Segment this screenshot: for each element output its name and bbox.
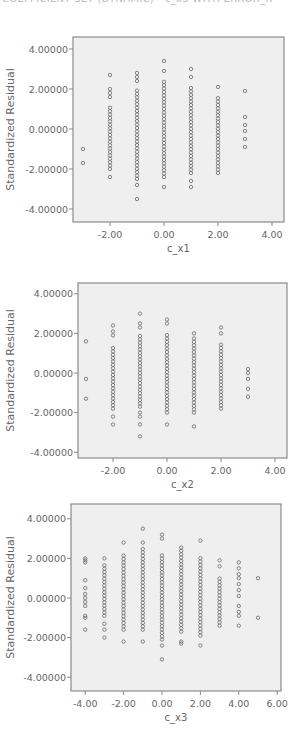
y-tick-label: -2.00000 bbox=[23, 632, 66, 643]
x-tick-label: 2.00 bbox=[190, 698, 211, 709]
plot-area bbox=[71, 504, 281, 691]
y-tick-label: 4.00000 bbox=[34, 288, 73, 299]
x-tick-label: 0.00 bbox=[151, 698, 172, 709]
x-tick-label: 2.00 bbox=[210, 465, 231, 476]
x-tick-label: 4.00 bbox=[261, 229, 282, 240]
x-tick-label: -2.00 bbox=[111, 698, 136, 709]
residual-scatterplots: 4.000002.000000.00000-2.00000-4.00000-2.… bbox=[0, 0, 305, 750]
x-axis-title: c_x3 bbox=[165, 712, 188, 724]
x-tick-label: -4.00 bbox=[73, 698, 98, 709]
scatterplot-c-x1: 4.000002.000000.00000-2.00000-4.00000-2.… bbox=[4, 37, 284, 255]
x-axis-title: c_x1 bbox=[167, 243, 190, 255]
y-axis-title: Standardized Residual bbox=[4, 536, 17, 659]
plot-area bbox=[73, 37, 284, 222]
x-tick-label: 0.00 bbox=[156, 465, 177, 476]
y-axis-title: Standardized Residual bbox=[4, 68, 17, 191]
y-tick-label: 4.00000 bbox=[27, 513, 66, 524]
x-tick-label: 4.00 bbox=[228, 698, 249, 709]
x-tick-label: 2.00 bbox=[207, 229, 228, 240]
y-tick-label: 2.00000 bbox=[29, 84, 68, 95]
y-tick-label: 0.00000 bbox=[34, 368, 73, 379]
y-tick-label: 2.00000 bbox=[27, 553, 66, 564]
y-tick-label: -4.00000 bbox=[23, 672, 66, 683]
x-axis-title: c_x2 bbox=[171, 479, 194, 491]
scatterplot-c-x2: 4.000002.000000.00000-2.00000-4.00000-2.… bbox=[4, 283, 287, 491]
x-tick-label: 4.00 bbox=[264, 465, 285, 476]
y-tick-label: -4.00000 bbox=[25, 204, 68, 215]
y-tick-label: 2.00000 bbox=[34, 328, 73, 339]
x-tick-label: -2.00 bbox=[101, 465, 126, 476]
x-tick-label: -2.00 bbox=[98, 229, 123, 240]
y-tick-label: 0.00000 bbox=[29, 124, 68, 135]
scatterplot-c-x3: 4.000002.000000.00000-2.00000-4.00000-4.… bbox=[4, 504, 288, 724]
y-axis-title: Standardized Residual bbox=[4, 309, 17, 432]
plot-area bbox=[78, 283, 287, 458]
y-tick-label: -2.00000 bbox=[30, 407, 73, 418]
y-tick-label: -4.00000 bbox=[30, 447, 73, 458]
y-tick-label: -2.00000 bbox=[25, 164, 68, 175]
y-tick-label: 0.00000 bbox=[27, 593, 66, 604]
x-tick-label: 0.00 bbox=[153, 229, 174, 240]
x-tick-label: 6.00 bbox=[267, 698, 288, 709]
y-tick-label: 4.00000 bbox=[29, 44, 68, 55]
